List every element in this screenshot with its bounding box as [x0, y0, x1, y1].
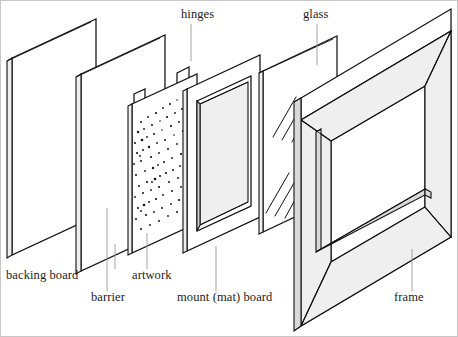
- label-mount-mat-board: mount (mat) board: [177, 290, 273, 304]
- label-glass: glass: [303, 7, 329, 21]
- label-artwork: artwork: [132, 268, 172, 282]
- label-frame: frame: [394, 290, 424, 304]
- label-barrier: barrier: [91, 290, 126, 304]
- framing-exploded-diagram: hinges glass backing board barrier artwo…: [0, 0, 458, 337]
- label-hinges: hinges: [181, 7, 214, 21]
- label-backing-board: backing board: [6, 268, 79, 282]
- diagram-canvas: hinges glass backing board barrier artwo…: [1, 1, 458, 337]
